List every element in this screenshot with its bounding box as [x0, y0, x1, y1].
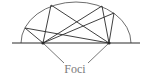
- reflection-ray: [102, 6, 109, 43]
- reflection-ray: [25, 28, 43, 43]
- focus-pointer-line: [88, 43, 109, 63]
- reflection-ray: [43, 6, 102, 43]
- reflection-rays: [25, 5, 114, 43]
- foci-pointer-lines: [43, 43, 109, 63]
- focus-pointer-line: [43, 43, 64, 63]
- reflection-ray: [51, 5, 109, 43]
- reflection-ray: [109, 13, 114, 43]
- foci-label: Foci: [64, 62, 86, 76]
- right-focus: [107, 41, 110, 44]
- reflection-ray: [25, 28, 109, 43]
- left-focus: [41, 41, 44, 44]
- reflection-ray: [43, 13, 114, 43]
- ellipse-foci-diagram: Foci: [0, 0, 147, 80]
- reflection-ray: [43, 5, 51, 43]
